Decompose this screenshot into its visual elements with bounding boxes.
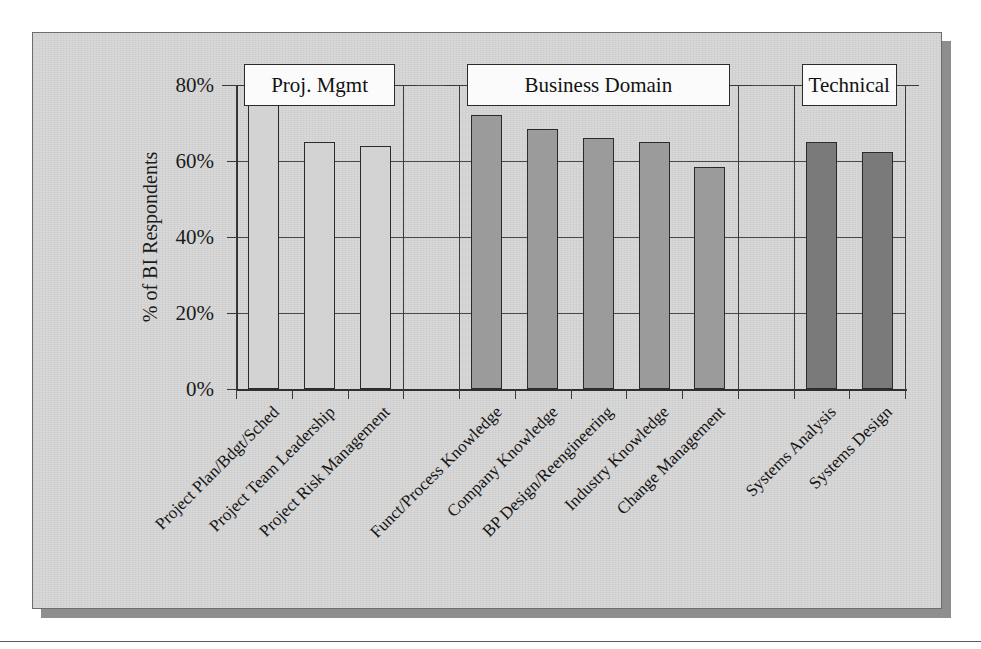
y-axis-tick-label: 80% — [0, 75, 214, 96]
bar-1 — [248, 102, 279, 389]
x-axis-tick — [236, 389, 237, 399]
y-axis-title: % of BI Respondents — [139, 152, 162, 323]
y-axis-tick-label: 0% — [0, 379, 214, 400]
page-bottom-rule — [0, 641, 981, 642]
group-divider-2-1 — [459, 85, 460, 389]
group-label-box-1: Proj. Mgmt — [244, 64, 395, 106]
group-connector-right-1 — [395, 85, 417, 86]
x-axis-tick — [794, 389, 795, 399]
group-connector-left-2 — [445, 85, 467, 86]
group-label-box-3: Technical — [802, 64, 898, 106]
group-divider-3-2 — [905, 85, 906, 389]
group-divider-3-1 — [794, 85, 795, 389]
x-axis-tick — [459, 389, 460, 399]
y-gridline — [236, 161, 905, 162]
group-divider-1-2 — [403, 85, 404, 389]
group-connector-right-3 — [897, 85, 919, 86]
y-gridline — [236, 237, 905, 238]
group-divider-2-2 — [738, 85, 739, 389]
y-axis-tick-label: 60% — [0, 151, 214, 172]
page-canvas: 0%20%40%60%80%% of BI RespondentsProject… — [0, 0, 981, 649]
group-divider-1-1 — [236, 85, 237, 389]
bar-9 — [806, 142, 837, 389]
bar-4 — [471, 115, 502, 389]
y-axis-tick-label: 20% — [0, 303, 214, 324]
group-connector-right-2 — [730, 85, 752, 86]
group-connector-left-3 — [780, 85, 802, 86]
y-axis-tick-label: 40% — [0, 227, 214, 248]
group-connector-left-1 — [222, 85, 244, 86]
group-label-box-2: Business Domain — [467, 64, 730, 106]
